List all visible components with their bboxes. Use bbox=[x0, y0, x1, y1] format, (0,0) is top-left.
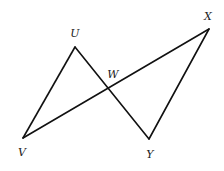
segment-vu bbox=[23, 47, 75, 138]
label-y: Y bbox=[146, 148, 155, 161]
segment-yx bbox=[149, 29, 209, 139]
segment-xv bbox=[23, 29, 209, 138]
label-v: V bbox=[18, 146, 27, 159]
label-w: W bbox=[107, 68, 120, 81]
label-u: U bbox=[70, 27, 80, 40]
segment-uy bbox=[75, 47, 149, 139]
geometry-diagram: U X V Y W bbox=[0, 0, 224, 171]
label-x: X bbox=[203, 10, 213, 23]
